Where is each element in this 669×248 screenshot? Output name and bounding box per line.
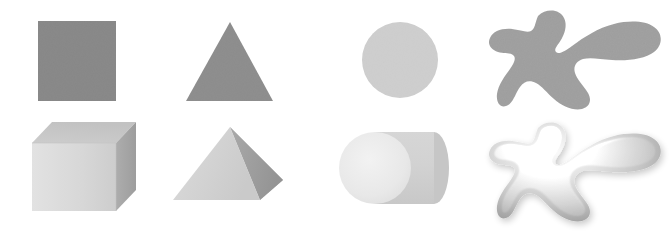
blob-3d-shape <box>489 123 661 222</box>
cell-square <box>0 0 160 120</box>
cube-svg <box>0 118 160 228</box>
cell-blob-3d <box>480 118 669 228</box>
square-svg <box>0 0 160 120</box>
cylinder-front-cap <box>339 132 411 204</box>
triangle-svg <box>160 0 330 120</box>
cell-pyramid <box>160 118 330 228</box>
blob-2d-shape <box>489 11 661 110</box>
square-shape <box>38 21 116 101</box>
blob-2d-svg <box>480 0 669 120</box>
cell-cube <box>0 118 160 228</box>
cell-circle <box>330 0 480 120</box>
shape-figure-canvas: 2D silhouettes (flat, uniform fill) 3D r… <box>0 0 669 248</box>
cell-cylinder <box>330 118 480 228</box>
cylinder-svg <box>330 118 480 228</box>
blob-3d-svg <box>480 118 669 228</box>
circle-svg <box>330 0 480 120</box>
cell-blob-2d <box>480 0 669 120</box>
blob-3d-group <box>489 123 661 222</box>
circle-shape <box>362 22 438 98</box>
cell-triangle <box>160 0 330 120</box>
cube-front-face <box>32 143 116 211</box>
pyramid-svg <box>160 118 330 228</box>
triangle-shape <box>186 22 273 101</box>
